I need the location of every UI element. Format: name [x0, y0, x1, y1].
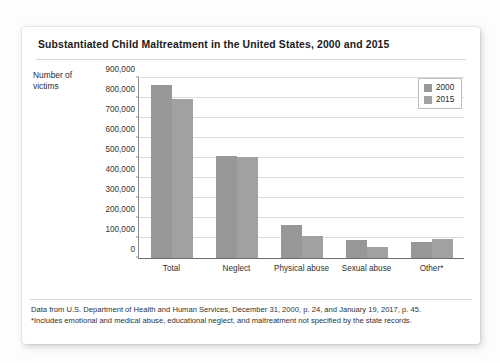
bar-group: Sexual abuse — [334, 78, 399, 258]
footnotes: Data from U.S. Department of Health and … — [31, 305, 475, 326]
title-divider — [36, 59, 466, 60]
bar-2015 — [302, 236, 323, 258]
footnote-other-definition: *Includes emotional and medical abuse, e… — [31, 316, 475, 327]
bar-2000 — [346, 240, 367, 258]
legend-swatch-icon-2015 — [424, 96, 432, 104]
plot-wrapper: 900,000800,000700,000600,000500,000400,0… — [96, 72, 464, 287]
bar-group: Physical abuse — [269, 78, 334, 258]
legend-label-2015: 2015 — [436, 95, 454, 104]
figure-title: Substantiated Child Maltreatment in the … — [38, 39, 389, 50]
legend-item-2000: 2000 — [424, 83, 454, 92]
bar-group: Total — [139, 78, 204, 258]
y-axis-title: Number of victims — [33, 70, 95, 92]
y-axis-tick-label: 800,000 — [105, 85, 135, 94]
bar-2015 — [237, 157, 258, 258]
bar-2015 — [432, 239, 453, 258]
bar-2015 — [367, 247, 388, 258]
y-axis-tick-label: 400,000 — [105, 165, 135, 174]
y-axis-tick-label: 0 — [130, 245, 135, 254]
page-root: Substantiated Child Maltreatment in the … — [0, 0, 500, 363]
plot-area: 900,000800,000700,000600,000500,000400,0… — [138, 78, 464, 259]
y-axis-tick-label: 300,000 — [105, 185, 135, 194]
x-axis-category-label: Sexual abuse — [342, 264, 392, 273]
legend-item-2015: 2015 — [424, 95, 454, 104]
x-axis-category-label: Total — [163, 264, 180, 273]
y-axis-tick-label: 700,000 — [105, 105, 135, 114]
bar-2000 — [151, 85, 172, 258]
x-axis-category-label: Physical abuse — [274, 264, 329, 273]
figure-card: Substantiated Child Maltreatment in the … — [22, 27, 480, 344]
footnote-source: Data from U.S. Department of Health and … — [31, 305, 475, 316]
bar-group: Neglect — [204, 78, 269, 258]
bar-2000 — [281, 225, 302, 258]
legend-label-2000: 2000 — [436, 83, 454, 92]
bar-2015 — [172, 99, 193, 258]
y-axis-tick-label: 100,000 — [105, 225, 135, 234]
y-axis-tick-label: 600,000 — [105, 125, 135, 134]
y-axis-tick-label: 900,000 — [105, 65, 135, 74]
y-axis-tick-label: 200,000 — [105, 205, 135, 214]
bar-2000 — [216, 156, 237, 258]
chart-legend: 2000 2015 — [418, 78, 462, 109]
footnote-divider — [30, 299, 472, 300]
x-axis-category-label: Neglect — [223, 264, 251, 273]
y-axis-tick-label: 500,000 — [105, 145, 135, 154]
x-axis-category-label: Other* — [420, 264, 444, 273]
bar-2000 — [411, 242, 432, 258]
legend-swatch-icon-2000 — [424, 84, 432, 92]
